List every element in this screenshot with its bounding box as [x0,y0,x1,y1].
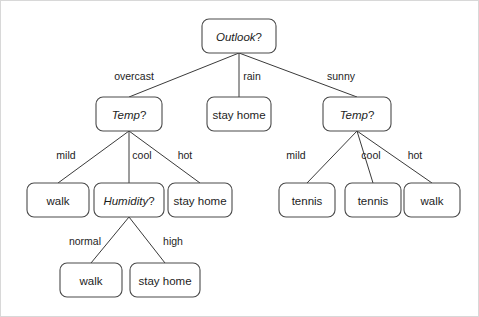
tree-edge [307,131,357,183]
decision-tree-diagram: Outlook?Temp?stay homeTemp?walkHumidity?… [0,0,479,317]
tree-node-stay_hot[interactable]: stay home [168,183,232,217]
node-label: tennis [292,195,323,207]
node-label: Temp? [112,109,147,121]
tree-node-humidity[interactable]: Humidity? [94,183,164,217]
tree-node-walk_hot[interactable]: walk [404,183,460,217]
tree-node-stay_rain[interactable]: stay home [207,97,271,131]
tree-node-walk_mild[interactable]: walk [27,183,89,217]
edge-label-mild: mild [56,149,75,161]
edge-label-high: high [163,235,183,247]
edge-label-cool: cool [132,149,151,161]
tree-node-tennis_cool[interactable]: tennis [345,183,401,217]
tree-edge [129,217,165,263]
edge-label-hot: hot [178,149,193,161]
node-label: tennis [358,195,389,207]
node-label: walk [45,195,69,207]
node-label: stay home [138,275,191,287]
tree-node-walk_normal[interactable]: walk [60,263,122,297]
edge-label-rain: rain [243,70,261,82]
edge-label-sunny: sunny [327,70,356,82]
edge-label-overcast: overcast [114,70,154,82]
node-label: Outlook? [216,31,262,43]
node-label: stay home [212,109,265,121]
node-label: Humidity? [103,195,154,207]
tree-node-temp_right[interactable]: Temp? [323,97,391,131]
edge-label-hot: hot [408,149,423,161]
tree-node-outlook[interactable]: Outlook? [202,19,276,53]
node-label: stay home [173,195,226,207]
tree-node-tennis_mild[interactable]: tennis [279,183,335,217]
node-label: Temp? [340,109,375,121]
node-label: walk [78,275,102,287]
node-label: walk [419,195,443,207]
edge-label-normal: normal [69,235,101,247]
tree-node-stay_high[interactable]: stay home [130,263,200,297]
edge-label-mild: mild [286,149,305,161]
tree-node-temp_left[interactable]: Temp? [96,97,162,131]
tree-canvas: Outlook?Temp?stay homeTemp?walkHumidity?… [1,1,478,316]
edge-label-cool: cool [361,149,380,161]
